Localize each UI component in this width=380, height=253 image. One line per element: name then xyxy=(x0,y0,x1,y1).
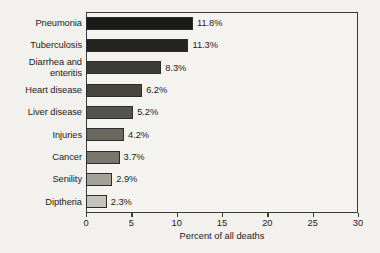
bar xyxy=(86,17,193,30)
category-label: Diptheria xyxy=(0,197,82,207)
bar-value-label: 2.9% xyxy=(116,174,137,184)
x-axis: Percent of all deaths 051015202530 xyxy=(0,213,380,253)
x-tick xyxy=(313,213,314,217)
bar xyxy=(86,84,142,97)
bar xyxy=(86,106,133,119)
bar-row: Liver disease5.2% xyxy=(0,101,380,123)
category-label: Liver disease xyxy=(0,107,82,117)
x-tick-label: 10 xyxy=(171,218,181,228)
x-tick-label: 25 xyxy=(307,218,317,228)
x-tick xyxy=(358,213,359,217)
bar-value-label: 4.2% xyxy=(128,130,149,140)
x-tick-label: 5 xyxy=(129,218,134,228)
bar xyxy=(86,128,124,141)
bar-row: Diptheria2.3% xyxy=(0,191,380,213)
category-label: Cancer xyxy=(0,152,82,162)
bar-value-label: 11.8% xyxy=(197,18,222,28)
category-label: Diarrhea andenteritis xyxy=(0,57,82,78)
bar-value-label: 8.3% xyxy=(165,63,186,73)
x-tick-label: 15 xyxy=(217,218,227,228)
bar-row: Pneumonia11.8% xyxy=(0,12,380,34)
x-tick xyxy=(131,213,132,217)
category-label: Injuries xyxy=(0,130,82,140)
x-tick xyxy=(177,213,178,217)
x-tick-label: 20 xyxy=(262,218,272,228)
bar-value-label: 6.2% xyxy=(146,85,167,95)
bar-value-label: 3.7% xyxy=(124,152,145,162)
bar-value-label: 5.2% xyxy=(137,107,158,117)
bar xyxy=(86,61,161,74)
x-tick xyxy=(267,213,268,217)
bar-row: Heart disease6.2% xyxy=(0,79,380,101)
bar-row: Injuries4.2% xyxy=(0,124,380,146)
bar-value-label: 2.3% xyxy=(111,197,132,207)
bar-row: Senility2.9% xyxy=(0,168,380,190)
x-tick xyxy=(86,213,87,217)
category-label: Heart disease xyxy=(0,85,82,95)
bar-row: Cancer3.7% xyxy=(0,146,380,168)
bar xyxy=(86,173,112,186)
category-label: Senility xyxy=(0,174,82,184)
bar xyxy=(86,151,120,164)
category-label: Tuberculosis xyxy=(0,40,82,50)
bar xyxy=(86,39,188,52)
x-tick-label: 30 xyxy=(353,218,363,228)
bar-row: Diarrhea andenteritis8.3% xyxy=(0,57,380,79)
x-tick-label: 0 xyxy=(83,218,88,228)
bar xyxy=(86,195,107,208)
bar-chart: Pneumonia11.8%Tuberculosis11.3%Diarrhea … xyxy=(0,0,380,253)
bar-value-label: 11.3% xyxy=(192,40,217,50)
bar-row: Tuberculosis11.3% xyxy=(0,34,380,56)
category-label: Pneumonia xyxy=(0,18,82,28)
x-axis-title: Percent of all deaths xyxy=(86,231,358,241)
bar-rows: Pneumonia11.8%Tuberculosis11.3%Diarrhea … xyxy=(0,12,380,213)
x-tick xyxy=(222,213,223,217)
